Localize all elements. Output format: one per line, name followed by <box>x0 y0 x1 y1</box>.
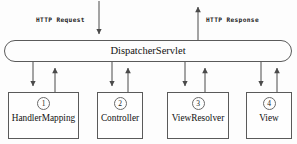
component-label-handlermapping: HandlerMapping <box>12 114 76 123</box>
step-badge-1: 1 <box>37 97 50 110</box>
component-label-view: View <box>259 114 279 123</box>
dispatcher-servlet-diagram: HTTP Request HTTP Response DispatcherSer… <box>0 0 297 144</box>
step-badge-4: 4 <box>263 97 276 110</box>
http-request-label: HTTP Request <box>36 16 85 23</box>
component-label-viewresolver: ViewResolver <box>172 114 225 123</box>
http-response-label: HTTP Response <box>206 16 259 23</box>
dispatcher-servlet-label: DispatcherServlet <box>110 46 185 57</box>
dispatcher-servlet-node: DispatcherServlet <box>4 40 292 62</box>
component-node-view: 4 View <box>246 92 292 139</box>
component-node-controller: 2 Controller <box>97 92 143 139</box>
component-label-controller: Controller <box>101 114 139 123</box>
component-node-viewresolver: 3 ViewResolver <box>167 92 229 139</box>
step-badge-3: 3 <box>192 97 205 110</box>
component-node-handlermapping: 1 HandlerMapping <box>8 92 79 139</box>
step-badge-2: 2 <box>114 97 127 110</box>
